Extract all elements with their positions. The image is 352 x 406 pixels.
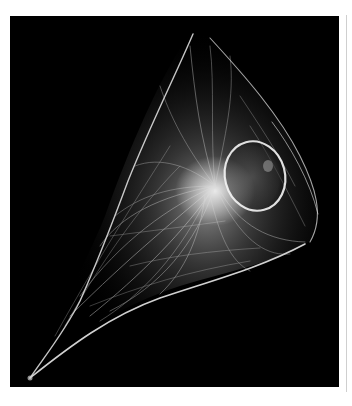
process-tip: [28, 376, 33, 381]
micrograph-panel: [10, 16, 339, 387]
cell-micrograph: [10, 16, 339, 387]
page-edge-line: [346, 15, 347, 392]
